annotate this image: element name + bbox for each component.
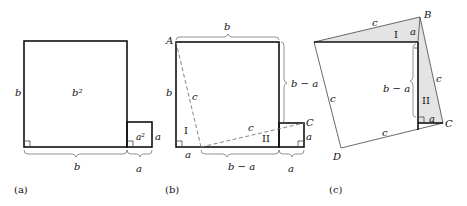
label-side-DA-c: c — [330, 93, 336, 104]
right-angle-mark — [298, 141, 304, 147]
label-triangle-I: I — [184, 125, 188, 136]
right-angle-mark — [127, 141, 133, 147]
label-side-b: b — [15, 87, 21, 98]
caption-b: (b) — [165, 184, 179, 195]
label-b-squared: b² — [72, 87, 82, 98]
label-triangle-II: II — [422, 95, 430, 106]
right-angle-mark — [176, 141, 182, 147]
label-b-minus-a: b − a — [383, 83, 410, 94]
brace-bottom-a — [127, 150, 152, 157]
label-side-BC-c: c — [436, 73, 442, 84]
vertex-D: D — [332, 151, 341, 162]
label-left-b: b — [166, 87, 172, 98]
brace-bottom-a — [279, 150, 304, 157]
label-right-b-minus-a: b − a — [291, 78, 318, 89]
small-square-a — [279, 123, 304, 147]
label-top-b: b — [224, 21, 230, 32]
label-side-a: a — [155, 131, 161, 142]
label-bottom-a-right: a — [288, 163, 294, 174]
label-side-AB-c: c — [372, 17, 378, 28]
vertex-C: C — [445, 118, 453, 129]
label-a-squared: a² — [136, 132, 145, 142]
panel-a: b b² a² a b a (a) — [14, 41, 161, 195]
label-bottom-b-minus-a: b − a — [228, 161, 255, 172]
panel-b: A C b b − a b c c I II a a b − a a (b) — [165, 21, 318, 195]
label-bottom-a-left: a — [185, 149, 191, 160]
brace-bottom-b — [24, 150, 127, 157]
vertex-B: B — [423, 9, 431, 20]
brace-top-b — [176, 34, 279, 40]
label-triangle-II: II — [262, 133, 270, 144]
brace-b-minus-a — [410, 44, 416, 117]
label-hyp-c-left: c — [192, 91, 198, 102]
brace-right-b-minus-a — [281, 42, 287, 123]
panel-c: B C D c c c c I II a a b − a (c) — [314, 9, 453, 195]
label-leg-a-top: a — [410, 26, 416, 37]
caption-c: (c) — [329, 184, 343, 195]
brace-bottom-b-minus-a — [201, 150, 279, 157]
label-bottom-b: b — [74, 161, 80, 172]
vertex-C: C — [306, 117, 314, 128]
right-angle-mark — [24, 141, 30, 147]
label-triangle-I: I — [394, 29, 398, 40]
label-side-a: a — [306, 131, 312, 142]
label-side-CD-c: c — [382, 127, 388, 138]
pythagorean-proof-diagram: b b² a² a b a (a) A C b b − a b c c I II… — [0, 0, 467, 206]
label-leg-a-bottom: a — [429, 113, 435, 124]
caption-a: (a) — [14, 184, 28, 195]
label-hyp-c-right: c — [248, 122, 254, 133]
label-bottom-a: a — [136, 163, 142, 174]
vertex-A: A — [165, 35, 173, 46]
